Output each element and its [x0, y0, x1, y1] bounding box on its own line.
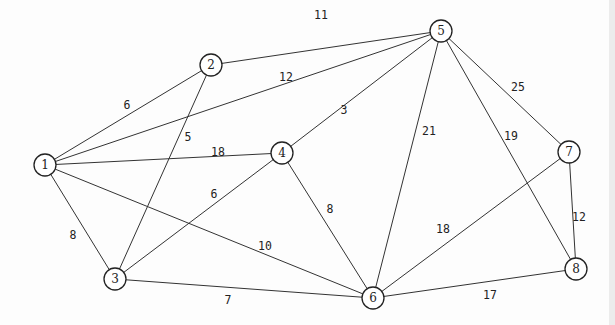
node-5: 5 [430, 20, 452, 42]
edge-weight-label: 3 [341, 103, 348, 117]
edge-1-6 [55, 169, 363, 294]
edge-weight-label: 10 [258, 239, 272, 253]
graph-diagram: 611125183810678211925181217 12345678 [0, 0, 615, 325]
edge-1-2 [54, 71, 201, 160]
edge-6-7 [382, 159, 560, 292]
edge-weight-label: 19 [504, 129, 518, 143]
edge-labels-layer: 611125183810678211925181217 [70, 8, 586, 307]
edge-1-4 [56, 154, 271, 165]
edge-weight-label: 17 [483, 288, 497, 302]
node-label: 2 [207, 58, 215, 72]
edge-weight-label: 6 [211, 187, 218, 201]
edge-4-5 [291, 38, 433, 147]
node-6: 6 [362, 287, 384, 309]
edge-1-5 [55, 35, 430, 162]
node-2: 2 [200, 54, 222, 76]
edge-2-5 [222, 33, 430, 64]
edge-weight-label: 12 [279, 70, 293, 84]
edge-weight-label: 18 [436, 222, 450, 236]
node-3: 3 [104, 268, 126, 290]
edge-weight-label: 6 [124, 98, 131, 112]
edges-layer [51, 33, 576, 298]
edge-weight-label: 11 [314, 8, 328, 22]
edge-3-6 [126, 280, 362, 297]
node-label: 5 [437, 24, 445, 38]
edge-weight-label: 5 [185, 130, 192, 144]
edge-3-4 [124, 160, 273, 273]
edge-weight-label: 8 [70, 228, 77, 242]
node-8: 8 [565, 258, 587, 280]
edge-weight-label: 21 [422, 124, 436, 138]
node-label: 4 [278, 146, 286, 160]
edge-4-6 [288, 162, 367, 288]
node-7: 7 [558, 141, 580, 163]
nodes-layer: 12345678 [34, 20, 587, 309]
edge-5-8 [446, 41, 570, 260]
node-label: 1 [41, 158, 49, 172]
page-edge-shadow [609, 0, 615, 325]
edge-weight-label: 25 [511, 80, 525, 94]
node-label: 3 [111, 272, 119, 286]
edge-weight-label: 18 [211, 145, 225, 159]
node-label: 8 [572, 262, 580, 276]
edge-weight-label: 7 [225, 293, 232, 307]
node-4: 4 [271, 142, 293, 164]
edge-1-3 [51, 174, 109, 269]
edge-weight-label: 12 [572, 210, 586, 224]
edge-2-3 [120, 75, 207, 269]
edge-6-8 [384, 271, 565, 297]
edge-5-6 [376, 42, 439, 288]
node-label: 7 [565, 145, 573, 159]
node-1: 1 [34, 154, 56, 176]
graph-canvas: 611125183810678211925181217 12345678 [0, 0, 615, 325]
node-label: 6 [369, 291, 377, 305]
edge-weight-label: 8 [327, 202, 334, 216]
